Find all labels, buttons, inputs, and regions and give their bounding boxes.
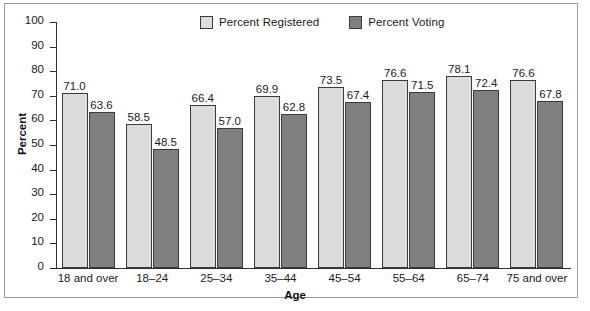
x-axis-tick-label: 55–64 <box>393 272 425 284</box>
plot-area: 71.063.658.548.566.457.069.962.873.567.4… <box>56 22 569 268</box>
y-axis-tick-label: 20 <box>14 212 44 224</box>
bar-value-label: 76.6 <box>384 67 406 79</box>
bar-value-label: 63.6 <box>90 99 112 111</box>
y-axis-label: Percent <box>16 94 28 174</box>
bar-value-label: 67.8 <box>539 88 561 100</box>
bar-value-label: 71.0 <box>63 80 85 92</box>
bar-voting: 57.0 <box>217 128 243 268</box>
x-axis-tick-label: 45–54 <box>329 272 361 284</box>
x-axis-tick-label: 18–24 <box>136 272 168 284</box>
bar-registered: 76.6 <box>510 80 536 268</box>
bar-value-label: 73.5 <box>320 74 342 86</box>
bar-value-label: 66.4 <box>192 92 214 104</box>
bar-value-label: 69.9 <box>256 83 278 95</box>
bar-group: 78.172.4 <box>446 22 499 268</box>
y-axis-tick-label: 100 <box>14 15 44 27</box>
bar-value-label: 72.4 <box>475 77 497 89</box>
bar-group: 58.548.5 <box>126 22 179 268</box>
bar-registered: 69.9 <box>254 96 280 268</box>
bar-group: 76.667.8 <box>510 22 563 268</box>
bar-group: 73.567.4 <box>318 22 371 268</box>
y-axis-tick-label: 80 <box>14 64 44 76</box>
bar-voting: 48.5 <box>153 149 179 268</box>
bar-voting: 72.4 <box>473 90 499 268</box>
bar-registered: 66.4 <box>190 105 216 268</box>
y-axis-tick-label: 30 <box>14 187 44 199</box>
x-axis-tick-label: 25–34 <box>200 272 232 284</box>
chart-figure: Percent Registered Percent Voting 010203… <box>0 0 590 311</box>
y-axis-tick-label: 10 <box>14 236 44 248</box>
bar-group: 66.457.0 <box>190 22 243 268</box>
bar-value-label: 78.1 <box>448 63 470 75</box>
bar-voting: 63.6 <box>89 112 115 268</box>
bar-value-label: 76.6 <box>512 67 534 79</box>
y-axis-tick-label: 90 <box>14 40 44 52</box>
bar-registered: 58.5 <box>126 124 152 268</box>
bar-value-label: 71.5 <box>411 79 433 91</box>
bar-voting: 67.8 <box>537 101 563 268</box>
y-axis-tick <box>50 268 56 269</box>
bar-group: 69.962.8 <box>254 22 307 268</box>
y-axis-tick-label: 0 <box>14 261 44 273</box>
x-axis-tick-label: 18 and over <box>58 272 119 284</box>
bar-registered: 76.6 <box>382 80 408 268</box>
x-axis-tick-label: 75 and over <box>507 272 568 284</box>
bar-value-label: 62.8 <box>283 101 305 113</box>
bar-group: 71.063.6 <box>62 22 115 268</box>
x-axis-tick-label: 35–44 <box>264 272 296 284</box>
bar-registered: 78.1 <box>446 76 472 268</box>
x-axis-tick-label: 65–74 <box>457 272 489 284</box>
bar-value-label: 67.4 <box>347 89 369 101</box>
x-axis-line <box>56 268 571 269</box>
bar-group: 76.671.5 <box>382 22 435 268</box>
bar-registered: 73.5 <box>318 87 344 268</box>
bar-voting: 62.8 <box>281 114 307 268</box>
bar-value-label: 48.5 <box>154 136 176 148</box>
x-axis-label: Age <box>0 289 590 301</box>
bar-value-label: 57.0 <box>219 115 241 127</box>
bar-value-label: 58.5 <box>127 111 149 123</box>
bar-voting: 67.4 <box>345 102 371 268</box>
bar-voting: 71.5 <box>409 92 435 268</box>
bar-registered: 71.0 <box>62 93 88 268</box>
